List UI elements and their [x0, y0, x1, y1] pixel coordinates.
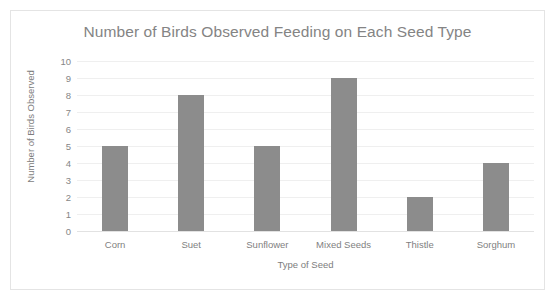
bar-group: Suet — [153, 61, 229, 231]
bar[interactable] — [102, 146, 128, 231]
x-axis-tick-label: Sorghum — [477, 239, 516, 250]
bar[interactable] — [407, 197, 433, 231]
bar[interactable] — [331, 78, 357, 231]
bar-group: Thistle — [382, 61, 458, 231]
y-axis-tick-label: 0 — [66, 226, 71, 237]
y-axis-tick-label: 1 — [66, 209, 71, 220]
gridline — [77, 231, 534, 232]
bar-group: Mixed Seeds — [306, 61, 382, 231]
chart-title: Number of Birds Observed Feeding on Each… — [11, 23, 544, 41]
y-axis-tick-label: 10 — [60, 56, 71, 67]
bar-group: Sunflower — [229, 61, 305, 231]
x-axis-tick-label: Corn — [105, 239, 126, 250]
bar-series: CornSuetSunflowerMixed SeedsThistleSorgh… — [77, 61, 534, 231]
y-axis-tick-label: 4 — [66, 158, 71, 169]
bar-group: Corn — [77, 61, 153, 231]
y-axis-tick-label: 7 — [66, 107, 71, 118]
y-axis-tick-label: 8 — [66, 90, 71, 101]
bar-group: Sorghum — [458, 61, 534, 231]
bar[interactable] — [178, 95, 204, 231]
x-axis-tick-label: Sunflower — [246, 239, 288, 250]
y-axis-tick-label: 9 — [66, 73, 71, 84]
y-axis-tick-label: 6 — [66, 124, 71, 135]
y-axis-tick-label: 5 — [66, 141, 71, 152]
y-axis-title: Number of Birds Observed — [25, 57, 36, 197]
y-axis-tick-label: 2 — [66, 192, 71, 203]
bar[interactable] — [254, 146, 280, 231]
x-axis-tick-label: Mixed Seeds — [316, 239, 371, 250]
y-axis-tick-label: 3 — [66, 175, 71, 186]
x-axis-title: Type of Seed — [77, 259, 534, 270]
bar[interactable] — [483, 163, 509, 231]
chart-frame: Number of Birds Observed Feeding on Each… — [10, 10, 545, 290]
plot-area: 109876543210 CornSuetSunflowerMixed Seed… — [77, 61, 534, 231]
x-axis-tick-label: Suet — [181, 239, 201, 250]
x-axis-tick-label: Thistle — [406, 239, 434, 250]
